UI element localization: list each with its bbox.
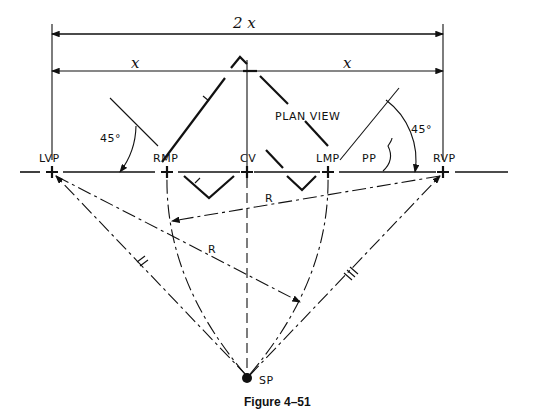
- radius-lower-label: R: [208, 243, 216, 256]
- lmp-cross: [322, 166, 334, 178]
- sp-label: SP: [259, 374, 274, 387]
- lvp-label: LVP: [39, 152, 60, 165]
- sight-lines: [56, 176, 440, 376]
- angle-left-label: 45°: [100, 132, 121, 145]
- station-point: [242, 373, 252, 383]
- radius-upper-label: R: [265, 192, 273, 205]
- dim-x-right-label: x: [343, 54, 352, 72]
- cv-label: CV: [240, 152, 256, 165]
- figure-caption: Figure 4–51: [244, 395, 311, 409]
- angle-right-label: 45°: [411, 123, 432, 136]
- rvp-label: RVP: [433, 152, 456, 165]
- plan-view-label: PLAN VIEW: [275, 110, 340, 123]
- dim-2x-label: 2 x: [232, 14, 256, 32]
- cv-cross: [241, 166, 253, 178]
- rmp-label: RMP: [153, 152, 178, 165]
- pp-label: PP: [362, 152, 376, 165]
- plan-view-square: [162, 57, 328, 198]
- rmp-cross: [161, 166, 173, 178]
- dim-x-left-label: x: [131, 54, 140, 72]
- perspective-diagram: 2 x x x PLAN VIEW 45° 45° LVP RMP CV LMP…: [0, 0, 534, 415]
- lmp-label: LMP: [316, 152, 340, 165]
